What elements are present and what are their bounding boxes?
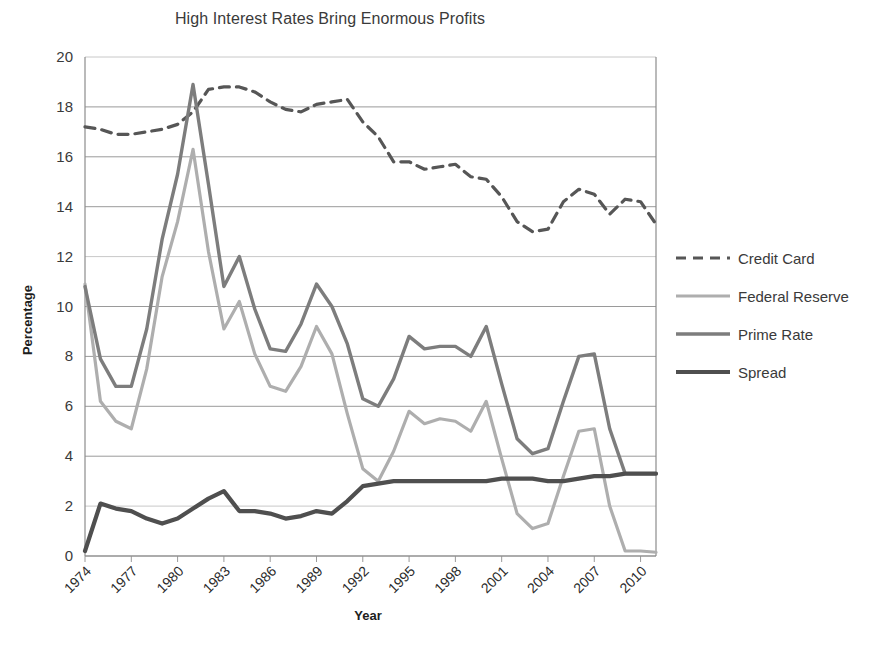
x-tick-label: 1992 [339, 563, 372, 596]
chart-page: High Interest Rates Bring Enormous Profi… [0, 0, 886, 646]
y-tick-label: 10 [56, 298, 73, 315]
x-tick-label: 1980 [153, 563, 186, 596]
legend-label-credit-card[interactable]: Credit Card [738, 250, 815, 267]
data-series-group [85, 84, 656, 552]
y-axis-title: Percentage [20, 285, 35, 355]
x-tick-label: 2007 [570, 563, 603, 596]
y-tick-label: 14 [56, 198, 73, 215]
y-tick-label: 0 [65, 547, 73, 564]
legend-label-prime-rate[interactable]: Prime Rate [738, 326, 813, 343]
x-axis-tick-labels: 1974197719801983198619891992199519982001… [61, 563, 650, 596]
legend-label-spread[interactable]: Spread [738, 364, 786, 381]
series-line-spread [85, 474, 656, 551]
x-tick-label: 1986 [246, 563, 279, 596]
y-tick-label: 4 [65, 447, 73, 464]
y-tick-label: 16 [56, 148, 73, 165]
x-tick-label: 1989 [292, 563, 325, 596]
y-tick-label: 8 [65, 347, 73, 364]
x-tick-label: 2004 [524, 563, 557, 596]
x-tick-label: 1974 [61, 563, 94, 596]
y-tick-label: 6 [65, 397, 73, 414]
y-tick-label: 2 [65, 497, 73, 514]
chart-legend: Credit CardFederal ReservePrime RateSpre… [676, 250, 849, 381]
x-tick-label: 1998 [431, 563, 464, 596]
legend-label-federal-reserve[interactable]: Federal Reserve [738, 288, 849, 305]
y-tick-label: 12 [56, 248, 73, 265]
x-tick-label: 1983 [200, 563, 233, 596]
x-tick-label: 1995 [385, 563, 418, 596]
x-tickmarks [85, 556, 641, 562]
y-tick-label: 20 [56, 48, 73, 65]
x-tick-label: 1977 [107, 563, 140, 596]
series-line-prime-rate [85, 84, 656, 473]
x-axis-title: Year [354, 608, 381, 623]
plot-area: 02468101214161820 1974197719801983198619… [0, 0, 886, 646]
y-axis-tick-labels: 02468101214161820 [56, 48, 73, 564]
x-tick-label: 2001 [477, 563, 510, 596]
y-tick-label: 18 [56, 98, 73, 115]
line-chart-svg: 02468101214161820 1974197719801983198619… [0, 0, 886, 646]
x-tick-label: 2010 [616, 563, 649, 596]
